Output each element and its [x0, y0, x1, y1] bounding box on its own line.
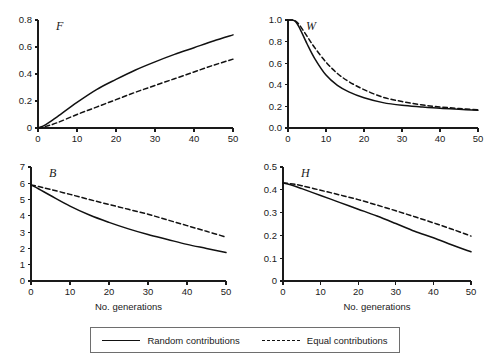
chart-svg-B: 0123456701020304050BNo. generations	[2, 155, 244, 318]
y-tick-label: 0	[272, 275, 277, 286]
x-tick-label: 0	[285, 133, 290, 144]
y-tick-label: 0	[27, 122, 32, 133]
y-tick-label: 1	[20, 259, 25, 270]
y-tick-label: 0	[20, 275, 25, 286]
y-tick-label: 0.6	[19, 41, 32, 52]
panel-F: 00.20.40.60.801020304050F	[2, 4, 244, 152]
y-tick-label: 7	[20, 161, 25, 172]
y-tick-label: 0.4	[269, 79, 282, 90]
panel-letter: F	[55, 19, 64, 33]
x-tick-label: 50	[221, 286, 232, 297]
y-tick-label: 0.8	[19, 14, 32, 25]
legend-entry-random: Random contributions	[102, 335, 239, 346]
figure-four-panel-line-charts: 00.20.40.60.801020304050F 0.00.20.40.60.…	[0, 0, 489, 362]
panel-H: 00.10.20.30.40.501020304050HNo. generati…	[247, 155, 489, 318]
y-tick-label: 3	[20, 227, 25, 238]
x-tick-label: 20	[359, 133, 370, 144]
series-line-random-contributions	[283, 183, 471, 252]
y-tick-label: 0.0	[269, 122, 282, 133]
x-tick-label: 30	[143, 286, 154, 297]
x-tick-label: 10	[315, 286, 326, 297]
panel-letter: H	[300, 166, 311, 180]
y-tick-label: 0.4	[264, 184, 277, 195]
y-tick-label: 0.5	[264, 161, 277, 172]
x-tick-label: 10	[321, 133, 332, 144]
y-tick-label: 4	[20, 210, 25, 221]
legend-entry-equal: Equal contributions	[262, 335, 388, 346]
series-line-equal-contributions	[283, 183, 471, 236]
series-line-random-contributions	[288, 20, 478, 110]
x-tick-label: 20	[353, 286, 364, 297]
y-tick-label: 0.2	[269, 101, 282, 112]
x-tick-label: 40	[428, 286, 439, 297]
x-tick-label: 0	[280, 286, 285, 297]
chart-svg-H: 00.10.20.30.40.501020304050HNo. generati…	[247, 155, 489, 318]
y-tick-label: 0.2	[264, 230, 277, 241]
x-tick-label: 10	[72, 133, 83, 144]
y-tick-label: 2	[20, 243, 25, 254]
x-tick-label: 20	[111, 133, 122, 144]
panel-letter: B	[49, 166, 57, 180]
panel-letter: W	[306, 19, 317, 33]
y-tick-label: 6	[20, 178, 25, 189]
x-axis-title: No. generations	[343, 301, 410, 312]
x-tick-label: 10	[65, 286, 76, 297]
y-tick-label: 0.2	[19, 95, 32, 106]
y-tick-label: 0.1	[264, 253, 277, 264]
legend-label-equal: Equal contributions	[307, 335, 388, 346]
x-tick-label: 0	[35, 133, 40, 144]
legend: Random contributions Equal contributions	[90, 327, 400, 353]
x-tick-label: 30	[397, 133, 408, 144]
x-tick-label: 50	[228, 133, 239, 144]
x-tick-label: 30	[150, 133, 161, 144]
series-line-random-contributions	[31, 185, 226, 253]
y-tick-label: 0.8	[269, 36, 282, 47]
x-tick-label: 40	[435, 133, 446, 144]
x-axis-title: No. generations	[95, 301, 162, 312]
x-tick-label: 0	[28, 286, 33, 297]
legend-swatch-dashed-line-icon	[262, 340, 300, 341]
x-tick-label: 50	[466, 286, 477, 297]
panel-W: 0.00.20.40.60.81.001020304050W	[247, 4, 489, 152]
y-tick-label: 0.6	[269, 58, 282, 69]
legend-label-random: Random contributions	[147, 335, 239, 346]
y-tick-label: 5	[20, 194, 25, 205]
y-tick-label: 1.0	[269, 14, 282, 25]
series-line-random-contributions	[38, 35, 233, 128]
y-tick-label: 0.3	[264, 207, 277, 218]
legend-swatch-solid-line-icon	[102, 340, 140, 341]
x-tick-label: 20	[104, 286, 115, 297]
y-tick-label: 0.4	[19, 68, 32, 79]
series-line-equal-contributions	[288, 20, 478, 110]
chart-svg-F: 00.20.40.60.801020304050F	[2, 4, 244, 152]
x-tick-label: 40	[182, 286, 193, 297]
chart-svg-W: 0.00.20.40.60.81.001020304050W	[247, 4, 489, 152]
x-tick-label: 50	[473, 133, 484, 144]
panel-grid: 00.20.40.60.801020304050F 0.00.20.40.60.…	[0, 0, 489, 318]
panel-B: 0123456701020304050BNo. generations	[2, 155, 244, 318]
x-tick-label: 40	[189, 133, 200, 144]
x-tick-label: 30	[391, 286, 402, 297]
